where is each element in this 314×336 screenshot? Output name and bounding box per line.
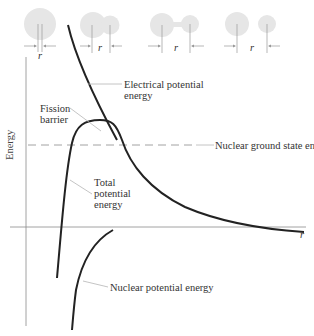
- label-total-3: energy: [94, 199, 122, 210]
- label-total-2: potential: [94, 188, 131, 199]
- leader-total: [70, 180, 92, 194]
- leader-nuclear: [83, 281, 108, 287]
- label-fission-2: barrier: [40, 114, 68, 125]
- label-fission-1: Fission: [40, 103, 70, 114]
- r-label-stage-4: r: [250, 42, 254, 53]
- label-ground-state: Nuclear ground state energy: [215, 140, 314, 151]
- caption-cutoff: [0, 331, 314, 336]
- x-axis-label: r: [300, 229, 304, 240]
- y-axis-label: Energy: [4, 130, 15, 160]
- nuclear-potential-curve: [72, 230, 113, 330]
- r-label-stage-1: r: [38, 50, 42, 61]
- label-electrical-2: energy: [124, 90, 152, 101]
- r-label-stage-3: r: [174, 42, 178, 53]
- label-electrical-1: Electrical potential: [124, 79, 204, 90]
- label-total-1: Total: [94, 177, 115, 188]
- label-nuclear: Nuclear potential energy: [110, 282, 214, 293]
- r-label-stage-2: r: [98, 42, 102, 53]
- nucleus-stage-merged: [24, 8, 56, 52]
